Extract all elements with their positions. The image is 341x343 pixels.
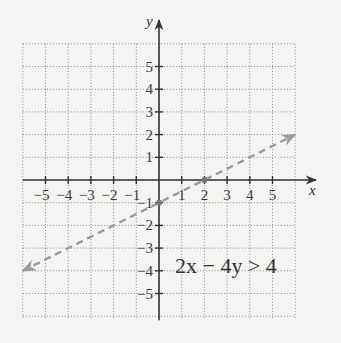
y-tick-label: 1 [146,149,154,165]
y-tick-label: −1 [137,195,153,211]
x-tick-label: −3 [79,187,95,203]
y-axis-label: y [144,13,153,29]
x-tick-label: 4 [246,187,254,203]
y-tick-label: 3 [146,104,154,120]
y-tick-label: 4 [146,81,154,97]
y-tick-label: 2 [146,127,154,143]
x-tick-label: 2 [201,187,209,203]
x-tick-label: −5 [34,187,50,203]
y-tick-label: −2 [137,217,153,233]
x-tick-label: 5 [269,187,277,203]
intercept-point [201,177,207,183]
y-tick-label: −3 [137,240,153,256]
y-tick-label: −5 [137,286,153,302]
inequality-label: 2x − 4y > 4 [175,253,277,278]
coordinate-plane: −5−4−3−2−11234554321−1−2−3−4−5 x y 2x − … [0,0,341,343]
intercept-point [156,200,162,206]
x-tick-label: 3 [223,187,231,203]
x-tick-label: −2 [102,187,118,203]
y-tick-label: 5 [146,59,154,75]
x-axis-label: x [308,182,316,198]
y-tick-label: −4 [137,263,153,279]
x-tick-label: −4 [56,187,72,203]
